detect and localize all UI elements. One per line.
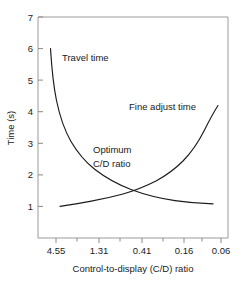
y-tick-label-1: 1 [28,201,33,212]
x-tick-label-2: 1.31 [90,245,109,256]
annotation-optimum-line1: Optimum [93,144,132,155]
x-axis-tick-labels: 4.55 1.31 0.41 0.16 0.06 [47,245,231,256]
curve-travel-time [51,49,214,204]
y-tick-label-6: 6 [28,43,33,54]
x-tick-label-4: 0.16 [175,245,194,256]
annotation-optimum-line2: C/D ratio [93,158,130,169]
y-axis-ticks [38,17,43,206]
y-tick-label-2: 2 [28,169,33,180]
y-tick-label-5: 5 [28,75,33,86]
y-axis-title: Time (s) [5,111,16,145]
annotation-travel-time: Travel time [62,52,109,63]
y-axis-tick-labels: 7 6 5 4 3 2 1 [28,12,33,212]
x-axis-minor-ticks [77,238,202,242]
annotation-fine-adjust-time: Fine adjust time [129,101,196,112]
x-tick-label-3: 0.41 [133,245,152,256]
x-axis-title: Control-to-display (C/D) ratio [73,263,194,274]
x-tick-label-5: 0.06 [212,245,231,256]
y-tick-label-7: 7 [28,12,33,23]
y-tick-label-4: 4 [28,106,33,117]
curve-fine-adjust-time [60,106,218,207]
x-tick-label-1: 4.55 [47,245,66,256]
y-tick-label-3: 3 [28,138,33,149]
x-axis-ticks [56,238,221,243]
chart-figure: 7 6 5 4 3 2 1 4.55 1.31 0.41 0.16 0.06 C… [0,0,242,286]
